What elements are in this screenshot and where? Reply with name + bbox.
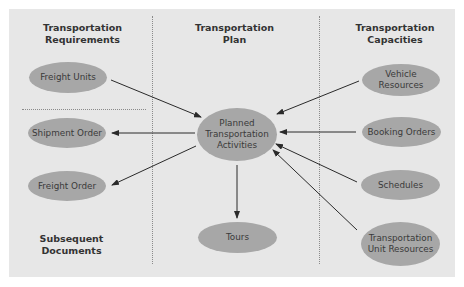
heading-transportation-capacities: Transportation Capacities	[340, 22, 450, 46]
node-label-line: Activities	[205, 140, 269, 151]
node-transportation-unit-resources: Transportation Unit Resources	[361, 222, 440, 266]
heading-line: Capacities	[340, 34, 450, 46]
node-label: Schedules	[378, 180, 423, 191]
node-shipment-order: Shipment Order	[28, 118, 106, 148]
node-label-line: Vehicle	[379, 69, 424, 80]
heading-line: Transportation	[172, 22, 297, 34]
heading-line: Subsequent	[20, 233, 123, 245]
node-freight-order: Freight Order	[28, 171, 106, 201]
heading-transportation-plan: Transportation Plan	[172, 22, 297, 46]
node-label: Freight Order	[38, 181, 96, 192]
heading-line: Documents	[20, 245, 123, 257]
heading-line: Plan	[172, 34, 297, 46]
node-vehicle-resources: Vehicle Resources	[362, 64, 440, 96]
node-schedules: Schedules	[361, 170, 440, 200]
divider-horizontal	[22, 109, 146, 110]
node-freight-units: Freight Units	[29, 62, 107, 93]
node-label-line: Resources	[379, 80, 424, 91]
heading-line: Transportation	[20, 22, 145, 34]
node-label: Shipment Order	[32, 128, 102, 139]
heading-line: Requirements	[20, 34, 145, 46]
node-tours: Tours	[198, 222, 277, 253]
node-label: Freight Units	[40, 72, 96, 83]
heading-transportation-requirements: Transportation Requirements	[20, 22, 145, 46]
divider-right	[319, 16, 320, 264]
node-label: Booking Orders	[368, 127, 436, 138]
node-booking-orders: Booking Orders	[362, 117, 441, 147]
divider-left	[152, 16, 153, 264]
node-label: Tours	[226, 232, 249, 243]
heading-subsequent-documents: Subsequent Documents	[20, 233, 123, 257]
node-label-line: Transportation	[368, 233, 434, 244]
node-label-line: Unit Resources	[368, 244, 434, 255]
node-planned-transportation-activities: Planned Transportation Activities	[197, 108, 277, 161]
node-label-line: Planned	[205, 118, 269, 129]
heading-line: Transportation	[340, 22, 450, 34]
node-label-line: Transportation	[205, 129, 269, 140]
